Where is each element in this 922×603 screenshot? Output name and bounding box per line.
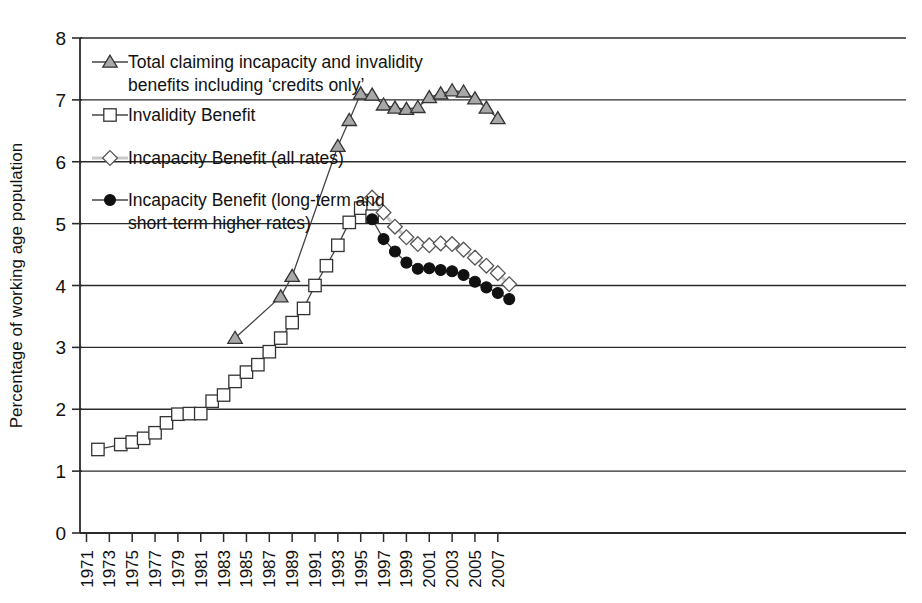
y-tick-label-2: 2: [55, 399, 66, 420]
square-marker: [115, 438, 127, 450]
circle-marker: [367, 214, 378, 225]
circle-marker: [105, 195, 116, 206]
gridlines: [80, 38, 906, 471]
circle-marker: [492, 287, 503, 298]
y-tick-label-6: 6: [55, 152, 66, 173]
legend-label-3: Incapacity Benefit (all rates): [128, 148, 344, 168]
square-marker: [217, 389, 229, 401]
diamond-marker: [103, 151, 118, 166]
square-marker: [263, 346, 275, 358]
y-tick-label-7: 7: [55, 90, 66, 111]
x-tick-label-2001: 2001: [420, 550, 439, 588]
legend-item-3[interactable]: Incapacity Benefit (all rates): [92, 148, 344, 168]
circle-marker: [481, 282, 492, 293]
square-marker: [172, 408, 184, 420]
triangle-marker: [103, 55, 117, 67]
y-tick-label-3: 3: [55, 337, 66, 358]
square-marker: [229, 375, 241, 387]
x-tick-label-1985: 1985: [237, 550, 256, 588]
legend-label-4-line2: short-term higher rates): [128, 213, 311, 233]
circle-marker: [424, 263, 435, 274]
square-marker: [160, 417, 172, 429]
x-tick-label-1973: 1973: [100, 550, 119, 588]
circle-marker: [469, 276, 480, 287]
x-tick-label-1993: 1993: [329, 550, 348, 588]
y-tick-label-0: 0: [55, 523, 66, 544]
square-marker: [149, 427, 161, 439]
legend-item-2[interactable]: Invalidity Benefit: [92, 105, 256, 125]
circle-marker: [401, 257, 412, 268]
square-marker: [206, 395, 218, 407]
square-marker: [343, 216, 355, 228]
square-marker: [332, 239, 344, 251]
circle-marker: [389, 246, 400, 257]
chart-canvas: 0123456781971197319751977197919811983198…: [0, 0, 922, 603]
y-tick-label-5: 5: [55, 214, 66, 235]
square-marker: [275, 332, 287, 344]
square-marker: [126, 436, 138, 448]
y-axis-title: Percentage of working age population: [7, 143, 26, 428]
x-tick-label-1991: 1991: [306, 550, 325, 588]
square-marker: [92, 443, 104, 455]
circle-marker: [412, 263, 423, 274]
square-marker: [104, 109, 116, 121]
x-tick-label-1975: 1975: [123, 550, 142, 588]
triangle-marker: [468, 92, 482, 104]
legend-label-1: Total claiming incapacity and invalidity: [128, 52, 423, 72]
square-marker: [309, 279, 321, 291]
y-tick-label-8: 8: [55, 28, 66, 49]
legend-item-4[interactable]: Incapacity Benefit (long-term andshort-t…: [92, 190, 385, 233]
y-tick-label-1: 1: [55, 461, 66, 482]
x-tick-label-1987: 1987: [260, 550, 279, 588]
y-tick-label-4: 4: [55, 276, 66, 297]
circle-marker: [458, 269, 469, 280]
legend-label-4: Incapacity Benefit (long-term and: [128, 190, 385, 210]
x-tick-label-1979: 1979: [169, 550, 188, 588]
x-tick-label-1983: 1983: [215, 550, 234, 588]
triangle-marker: [445, 84, 459, 96]
x-tick-label-2003: 2003: [443, 550, 462, 588]
x-tick-label-1977: 1977: [146, 550, 165, 588]
square-marker: [320, 260, 332, 272]
legend-item-1[interactable]: Total claiming incapacity and invalidity…: [92, 52, 423, 95]
square-marker: [183, 407, 195, 419]
x-tick-label-1981: 1981: [192, 550, 211, 588]
square-marker: [240, 366, 252, 378]
legend-label-2: Invalidity Benefit: [128, 105, 256, 125]
chart-figure: 0123456781971197319751977197919811983198…: [0, 0, 922, 603]
legend-label-1-line2: benefits including ‘credits only’: [128, 75, 364, 95]
x-tick-label-1971: 1971: [78, 550, 97, 588]
x-tick-label-1999: 1999: [397, 550, 416, 588]
triangle-marker: [285, 269, 299, 281]
series-line-2: [98, 208, 372, 449]
circle-marker: [504, 294, 515, 305]
x-tick-label-2007: 2007: [489, 550, 508, 588]
square-marker: [297, 302, 309, 314]
circle-marker: [447, 266, 458, 277]
square-marker: [137, 432, 149, 444]
series-2: [92, 202, 379, 456]
x-tick-label-1989: 1989: [283, 550, 302, 588]
square-marker: [286, 316, 298, 328]
triangle-marker: [274, 290, 288, 302]
square-marker: [195, 407, 207, 419]
legend: Total claiming incapacity and invalidity…: [92, 52, 423, 233]
square-marker: [252, 359, 264, 371]
circle-marker: [378, 234, 389, 245]
x-tick-label-1995: 1995: [352, 550, 371, 588]
circle-marker: [435, 265, 446, 276]
x-tick-label-2005: 2005: [466, 550, 485, 588]
x-tick-label-1997: 1997: [375, 550, 394, 588]
triangle-marker: [342, 113, 356, 125]
